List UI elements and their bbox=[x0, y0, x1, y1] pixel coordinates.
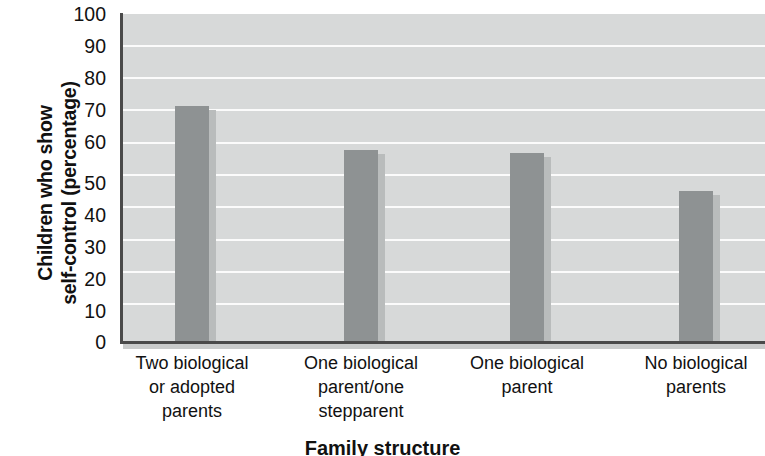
gridline-10 bbox=[123, 303, 765, 305]
gridline-70 bbox=[123, 109, 765, 111]
gridline-20 bbox=[123, 271, 765, 273]
bar-one-biological-parent-one-stepparent bbox=[344, 150, 378, 341]
gridline-80 bbox=[123, 77, 765, 79]
gridline-50 bbox=[123, 174, 765, 176]
bar-chart: Children who show self-control (percenta… bbox=[0, 0, 765, 456]
x-axis-shadow bbox=[123, 344, 765, 349]
gridline-30 bbox=[123, 239, 765, 241]
y-tick-label: 0 bbox=[95, 333, 106, 353]
gridline-60 bbox=[123, 142, 765, 144]
y-tick-label: 90 bbox=[84, 37, 106, 57]
y-tick-label: 80 bbox=[84, 69, 106, 89]
x-tick-label-one-biological-parent: One biological parent bbox=[439, 352, 615, 400]
x-tick-label-no-biological-parents: No biological parents bbox=[608, 352, 765, 400]
y-tick-label: 10 bbox=[84, 302, 106, 322]
bar-two-biological-or-adopted-parents bbox=[175, 106, 209, 341]
x-tick-label-one-biological-parent-one-stepparent: One biological parent/one stepparent bbox=[273, 352, 449, 424]
y-tick-label: 40 bbox=[84, 206, 106, 226]
y-axis-tick-labels: 100 90 80 70 60 50 40 30 20 10 0 bbox=[52, 0, 114, 356]
bar-one-biological-parent bbox=[510, 153, 544, 341]
y-tick-label: 100 bbox=[73, 5, 106, 25]
x-axis-title: Family structure bbox=[0, 438, 765, 456]
y-tick-label: 70 bbox=[84, 101, 106, 121]
x-axis-tick-labels: Two biological or adopted parents One bi… bbox=[0, 352, 765, 432]
y-tick-label: 30 bbox=[84, 238, 106, 258]
x-axis-line bbox=[120, 341, 765, 344]
x-tick-label-two-biological-or-adopted-parents: Two biological or adopted parents bbox=[104, 352, 280, 424]
gridline-40 bbox=[123, 206, 765, 208]
y-tick-label: 20 bbox=[84, 270, 106, 290]
bar-shadow bbox=[378, 154, 385, 341]
y-tick-label: 60 bbox=[84, 133, 106, 153]
bar-shadow bbox=[713, 195, 720, 341]
gridline-90 bbox=[123, 45, 765, 47]
y-tick-label: 50 bbox=[84, 174, 106, 194]
bar-shadow bbox=[544, 157, 551, 341]
bar-no-biological-parents bbox=[679, 191, 713, 341]
bar-shadow bbox=[209, 110, 216, 341]
y-axis-line bbox=[120, 13, 123, 343]
plot-area bbox=[123, 14, 765, 341]
